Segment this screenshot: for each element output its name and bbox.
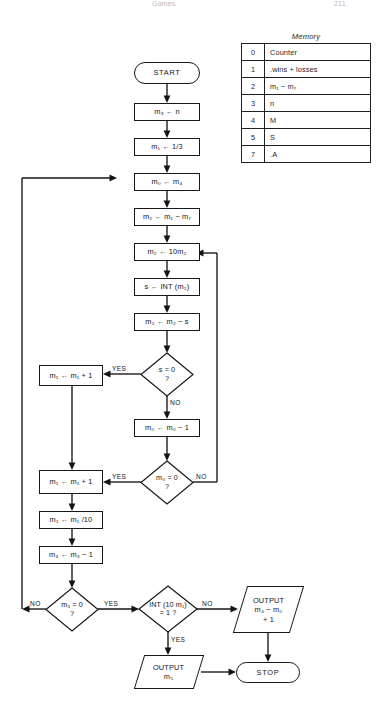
decision-label: m₃ = 0 ? [46,588,98,631]
process-decrement-m0: m₀ ← m₀ − 1 [134,419,200,437]
process-label: m₂ ← 10m₂ [147,247,186,256]
flowchart-page: Games 211 Memory 0 Counter 1 .wins + los… [0,0,383,712]
process-scale-m2: m₂ ← 10m₂ [134,243,200,261]
process-label: m₂ ← m₁ − m₇ [143,212,191,221]
output-line1: OUTPUT [153,663,184,672]
decision-label: m₀ = 0 ? [141,461,193,504]
process-label: m₁ ← m₁ + 1 [50,477,93,486]
edge-label-yes-1: YES [112,365,126,372]
output-text-block: OUTPUT m₅ [153,663,184,682]
output-line1: OUTPUT [253,596,284,605]
output-line2: m₄ − m₀ [253,605,284,614]
process-divide-m1: m₁ ← m₁ /10 [39,511,103,529]
decision-label: s = 0 ? [141,353,193,396]
decision-s-equals-zero: s = 0 ? [141,353,193,396]
edge-label-no-3: NO [30,600,41,607]
edge-label-yes-2: YES [112,473,126,480]
process-label: m₁ ← 1/3 [151,142,183,151]
process-increment-m1-a: m₁ ← m₁ + 1 [39,365,103,386]
process-set-m1-third: m₁ ← 1/3 [134,138,200,156]
process-decrement-m3: m₃ ← m₃ − 1 [39,546,103,564]
process-reduce-m2: m₂ ← m₂ − s [134,313,200,331]
process-label: m₂ ← m₂ − s [145,317,188,326]
edge-label-no-1: NO [170,399,181,406]
decision-line2: ? [70,610,74,618]
process-label: m₀ ← m₄ [152,177,183,186]
process-label: m₀ ← m₀ − 1 [145,423,189,432]
decision-label: INT (10 m₁) = 1 ? [139,586,197,632]
output-line3: + 1 [253,614,284,623]
terminator-start: START [134,62,200,84]
edge-label-no-4: NO [202,600,213,607]
process-label: m₃ ← n [154,107,180,116]
terminator-stop-label: STOP [257,668,280,677]
decision-int-10m1-equals-one: INT (10 m₁) = 1 ? [139,586,197,632]
process-label: m₁ ← m₁ + 1 [50,371,93,380]
process-set-m3-n: m₃ ← n [134,103,200,121]
edge-label-no-2: NO [196,473,207,480]
process-label: m₁ ← m₁ /10 [50,515,93,524]
decision-line2: ? [165,483,169,491]
process-set-m2-diff: m₂ ← m₁ − m₇ [134,208,200,226]
decision-m0-equals-zero: m₀ = 0 ? [141,461,193,504]
process-label: m₃ ← m₃ − 1 [49,550,93,559]
output-line2: m₅ [153,672,184,681]
decision-m3-equals-zero: m₃ = 0 ? [46,588,98,631]
terminator-stop: STOP [236,662,300,683]
process-set-m0-m4: m₀ ← m₄ [134,173,200,191]
output-text-block: OUTPUT m₄ − m₀ + 1 [253,596,284,624]
edge-label-yes-4: YES [171,636,185,643]
output-m5: OUTPUT m₅ [134,655,204,689]
process-increment-m1-b: m₁ ← m₁ + 1 [39,470,103,494]
decision-line2: ? [165,375,169,383]
terminator-start-label: START [153,68,180,77]
edge-label-yes-3: YES [104,600,118,607]
process-label: s ← INT (m₂) [145,282,190,291]
process-truncate-s: s ← INT (m₂) [134,278,200,296]
decision-line2: = 1 ? [160,609,177,617]
